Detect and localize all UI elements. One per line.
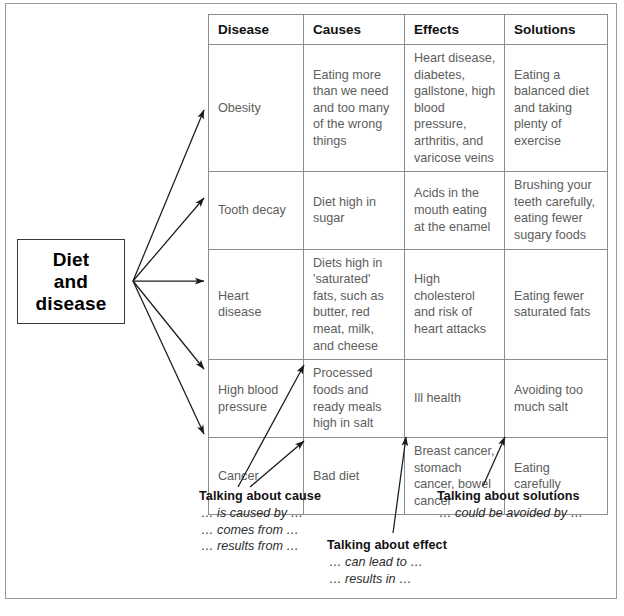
note-talking-about-effect: Talking about effect … can lead to … … r… bbox=[327, 538, 447, 587]
cell-solutions: Avoiding too much salt bbox=[505, 360, 608, 438]
table-header-row: Disease Causes Effects Solutions bbox=[209, 15, 608, 45]
cell-causes: Processed foods and ready meals high in … bbox=[304, 360, 405, 438]
note-cause-phrase: … is caused by … bbox=[199, 505, 321, 522]
table-row: Heart disease Diets high in 'saturated' … bbox=[209, 249, 608, 360]
cell-disease: Heart disease bbox=[209, 249, 304, 360]
source-box-label-line-3: disease bbox=[35, 293, 106, 315]
diagram-page: Diet and disease Disease Causes Effects … bbox=[0, 0, 624, 616]
source-box-label: Diet and disease bbox=[35, 249, 106, 315]
table-row: High blood pressure Processed foods and … bbox=[209, 360, 608, 438]
cell-disease: Obesity bbox=[209, 45, 304, 172]
note-effect-phrase: … results in … bbox=[327, 571, 447, 588]
cell-disease: High blood pressure bbox=[209, 360, 304, 438]
source-box-label-line-1: Diet bbox=[35, 249, 106, 271]
column-header-solutions: Solutions bbox=[505, 15, 608, 45]
cell-effects: Heart disease, diabetes, gallstone, high… bbox=[405, 45, 505, 172]
table-row: Tooth decay Diet high in sugar Acids in … bbox=[209, 172, 608, 249]
note-solutions-title: Talking about solutions bbox=[437, 489, 583, 503]
cell-causes: Diets high in 'saturated' fats, such as … bbox=[304, 249, 405, 360]
note-solutions-phrase: … could be avoided by … bbox=[437, 505, 583, 522]
column-header-effects: Effects bbox=[405, 15, 505, 45]
column-header-causes: Causes bbox=[304, 15, 405, 45]
note-effect-phrase: … can lead to … bbox=[327, 554, 447, 571]
cell-disease: Tooth decay bbox=[209, 172, 304, 249]
note-cause-title: Talking about cause bbox=[199, 489, 321, 503]
cell-solutions: Brushing your teeth carefully, eating fe… bbox=[505, 172, 608, 249]
cell-solutions: Eating a balanced diet and taking plenty… bbox=[505, 45, 608, 172]
cell-causes: Diet high in sugar bbox=[304, 172, 405, 249]
source-box-diet-and-disease: Diet and disease bbox=[17, 239, 125, 324]
source-box-label-line-2: and bbox=[35, 271, 106, 293]
disease-matrix-table: Disease Causes Effects Solutions Obesity… bbox=[208, 14, 608, 515]
note-talking-about-cause: Talking about cause … is caused by … … c… bbox=[199, 489, 321, 555]
note-talking-about-solutions: Talking about solutions … could be avoid… bbox=[437, 489, 583, 522]
cell-causes: Eating more than we need and too many of… bbox=[304, 45, 405, 172]
table-row: Obesity Eating more than we need and too… bbox=[209, 45, 608, 172]
cell-effects: Acids in the mouth eating at the enamel bbox=[405, 172, 505, 249]
column-header-disease: Disease bbox=[209, 15, 304, 45]
note-cause-phrase: … comes from … bbox=[199, 522, 321, 539]
note-effect-title: Talking about effect bbox=[327, 538, 447, 552]
note-cause-phrase: … results from … bbox=[199, 538, 321, 555]
cell-effects: High cholesterol and risk of heart attac… bbox=[405, 249, 505, 360]
cell-solutions: Eating fewer saturated fats bbox=[505, 249, 608, 360]
cell-effects: Ill health bbox=[405, 360, 505, 438]
